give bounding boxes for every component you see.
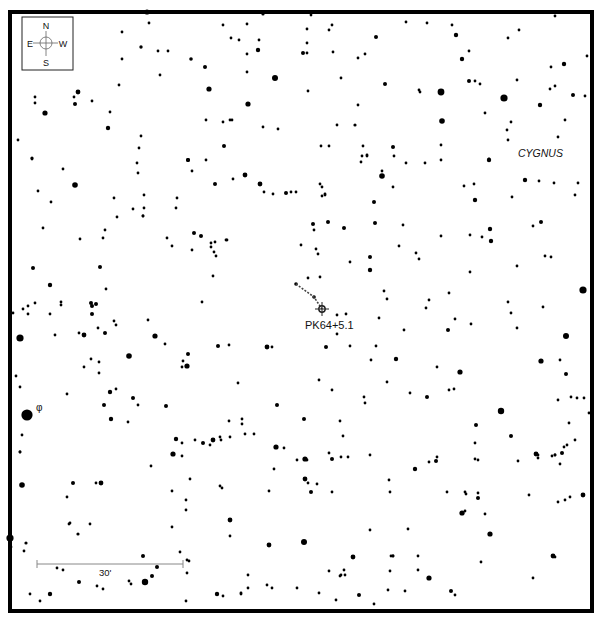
star-phi-label: φ (36, 402, 43, 413)
star (136, 162, 139, 165)
star (150, 574, 154, 578)
star (229, 535, 232, 538)
star (402, 224, 405, 227)
star (102, 237, 105, 240)
star (534, 452, 539, 457)
star (215, 255, 218, 258)
star (405, 21, 408, 24)
star (560, 451, 564, 455)
star (440, 235, 443, 238)
star (206, 86, 211, 91)
star (481, 236, 484, 239)
star (446, 491, 449, 494)
star (373, 221, 377, 225)
star (470, 323, 473, 326)
star (579, 286, 586, 293)
star (171, 526, 174, 529)
star (99, 481, 104, 486)
star (404, 590, 407, 593)
star (113, 197, 116, 200)
star (409, 392, 412, 395)
star (398, 245, 401, 248)
star (369, 454, 372, 457)
star (436, 456, 439, 459)
star (344, 574, 347, 577)
star (474, 80, 477, 83)
star (393, 155, 396, 158)
star (424, 162, 427, 165)
star (290, 191, 293, 194)
star (301, 539, 307, 545)
star (386, 298, 389, 301)
star (364, 402, 367, 405)
star (336, 333, 339, 336)
star (205, 119, 208, 122)
star (137, 404, 140, 407)
star (516, 265, 519, 268)
star (231, 119, 234, 122)
star (457, 369, 462, 374)
star (569, 496, 572, 499)
star (21, 409, 32, 420)
star (222, 595, 225, 598)
star (460, 57, 464, 61)
star (42, 227, 45, 230)
star (328, 29, 331, 32)
star (318, 592, 321, 595)
star (121, 58, 124, 61)
star (98, 361, 101, 364)
star (301, 51, 305, 55)
star (479, 83, 482, 86)
star (389, 491, 392, 494)
star (451, 24, 454, 27)
star (31, 266, 35, 270)
star (90, 312, 94, 316)
star (142, 579, 148, 585)
star (554, 85, 557, 88)
star (179, 551, 182, 554)
star (94, 302, 98, 306)
star (487, 158, 491, 162)
star (34, 102, 37, 105)
star (253, 433, 256, 436)
star (331, 24, 334, 27)
star (507, 301, 510, 304)
star (551, 455, 554, 458)
star (24, 541, 27, 544)
star (347, 456, 350, 459)
star (335, 599, 338, 602)
star (586, 55, 589, 58)
star (98, 372, 101, 375)
scale-label: 30' (99, 567, 112, 578)
star (357, 57, 360, 60)
star (336, 124, 339, 127)
star (263, 191, 266, 194)
star (328, 145, 331, 148)
star (351, 555, 356, 560)
star (109, 111, 112, 114)
star (349, 261, 352, 264)
star (426, 575, 431, 580)
star (104, 229, 107, 232)
star (76, 532, 79, 535)
star (403, 329, 406, 332)
star (509, 434, 513, 438)
star (277, 128, 280, 131)
star (141, 554, 145, 558)
star (273, 444, 278, 449)
star (132, 208, 135, 211)
star (27, 305, 30, 308)
star (69, 522, 72, 525)
star (97, 327, 100, 330)
star (219, 436, 222, 439)
star (316, 483, 319, 486)
star (357, 593, 361, 597)
star (181, 442, 184, 445)
star (186, 158, 190, 162)
star (90, 358, 93, 361)
star (49, 313, 52, 316)
star (226, 239, 229, 242)
star (480, 561, 483, 564)
star (296, 587, 299, 590)
star (19, 482, 25, 488)
